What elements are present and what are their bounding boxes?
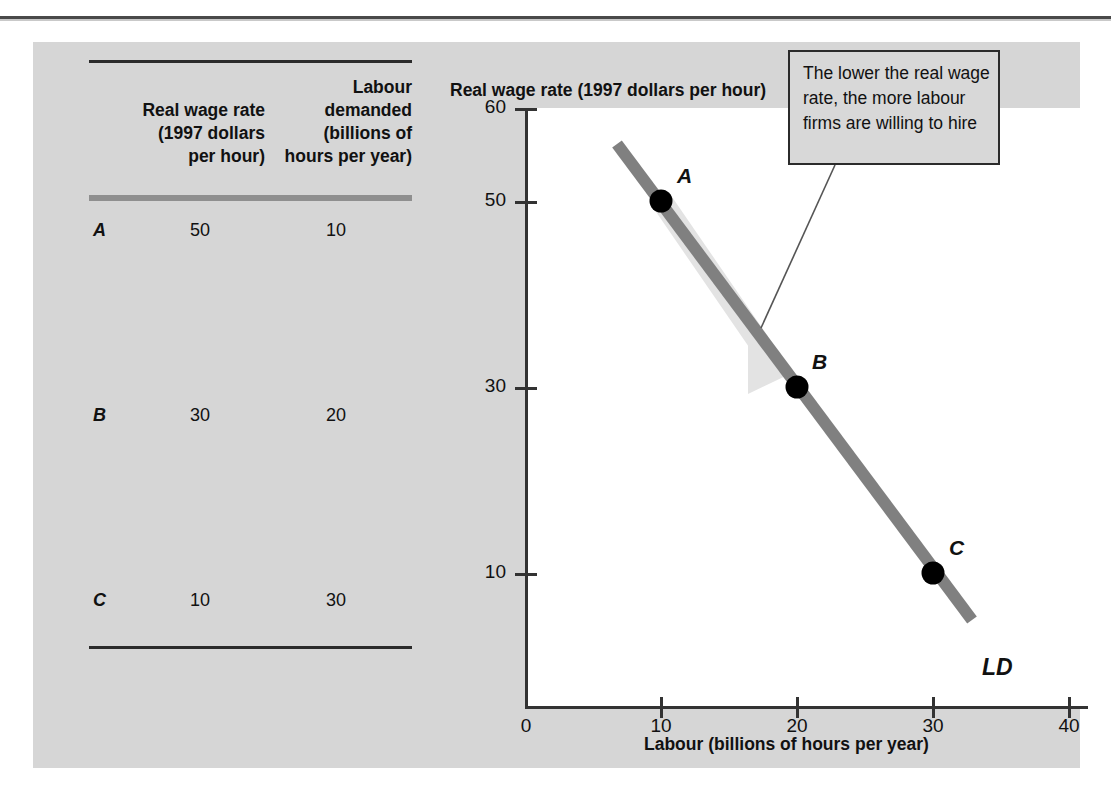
table-row-label-a: A	[93, 220, 121, 241]
x-tick-label-40: 40	[1046, 715, 1092, 737]
table-header-labour-demanded: Labour demanded (billions of hours per y…	[271, 76, 412, 168]
y-axis-line	[525, 108, 528, 708]
annotation-text: The lower the real wage rate, the more l…	[803, 61, 993, 136]
page-top-rule-shadow	[0, 19, 1111, 21]
y-tick-50	[515, 201, 537, 204]
annotation-callout: The lower the real wage rate, the more l…	[788, 50, 1000, 165]
y-tick-30	[515, 387, 537, 390]
table-cell-wage-a: 50	[135, 220, 265, 241]
table-header-real-wage-rate: Real wage rate (1997 dollars per hour)	[95, 99, 265, 168]
data-point-label-b: B	[812, 350, 827, 374]
data-point-label-a: A	[677, 164, 692, 188]
figure-panel: Real wage rate (1997 dollars per hour) L…	[33, 42, 1080, 768]
table-cell-wage-c: 10	[135, 590, 265, 611]
x-tick-label-0: 0	[503, 715, 549, 737]
y-tick-label-60: 60	[460, 96, 506, 118]
ld-curve-label: LD	[982, 654, 1013, 681]
data-point-label-c: C	[949, 536, 964, 560]
table-rule-bottom	[89, 646, 412, 649]
chart: Real wage rate (1997 dollars per hour) 6…	[412, 42, 1080, 768]
y-tick-label-50: 50	[460, 189, 506, 211]
table-cell-labour-a: 10	[271, 220, 401, 241]
table-cell-labour-b: 20	[271, 405, 401, 426]
table-rule-top	[89, 60, 412, 63]
y-tick-10	[515, 573, 537, 576]
table-row-label-b: B	[93, 405, 121, 426]
figure-root: Real wage rate (1997 dollars per hour) L…	[0, 0, 1111, 805]
table-row-label-c: C	[93, 590, 121, 611]
table-rule-mid	[89, 195, 412, 201]
x-axis-line	[525, 706, 1088, 709]
plot-area	[526, 108, 1088, 708]
y-tick-label-10: 10	[460, 561, 506, 583]
y-tick-label-30: 30	[460, 375, 506, 397]
data-table: Real wage rate (1997 dollars per hour) L…	[57, 57, 412, 657]
table-cell-wage-b: 30	[135, 405, 265, 426]
table-cell-labour-c: 30	[271, 590, 401, 611]
y-tick-60	[515, 108, 537, 111]
x-axis-title: Labour (billions of hours per year)	[644, 734, 929, 755]
